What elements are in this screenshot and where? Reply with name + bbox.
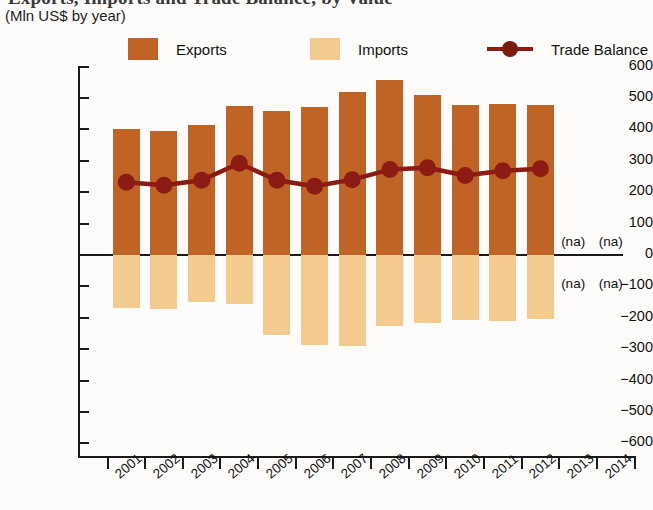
y-tick bbox=[78, 191, 89, 193]
export-bar bbox=[301, 107, 328, 255]
y-tick bbox=[78, 97, 89, 99]
export-bar bbox=[113, 129, 140, 255]
export-bar bbox=[188, 125, 215, 255]
y-tick-label: 200 bbox=[581, 182, 653, 198]
y-tick bbox=[78, 442, 89, 444]
import-bar bbox=[188, 255, 215, 302]
y-tick bbox=[78, 380, 89, 382]
x-tick bbox=[144, 456, 146, 469]
import-bar bbox=[527, 255, 554, 319]
export-bar bbox=[414, 95, 441, 255]
import-bar bbox=[301, 255, 328, 345]
x-tick bbox=[370, 456, 372, 469]
export-bar bbox=[489, 104, 516, 255]
import-bar bbox=[263, 255, 290, 335]
export-bar bbox=[527, 105, 554, 255]
na-label: (na) bbox=[561, 276, 585, 291]
import-bar bbox=[452, 255, 479, 320]
y-tick-label: 100 bbox=[581, 214, 653, 230]
y-tick bbox=[78, 411, 89, 413]
x-tick bbox=[107, 456, 109, 469]
y-tick-label: 300 bbox=[581, 151, 653, 167]
x-tick bbox=[483, 456, 485, 469]
export-bar bbox=[376, 80, 403, 255]
import-bar bbox=[376, 255, 403, 326]
x-tick bbox=[257, 456, 259, 469]
y-tick-label: −500 bbox=[581, 402, 653, 418]
y-tick-label: −200 bbox=[581, 308, 653, 324]
import-bar bbox=[489, 255, 516, 321]
y-tick bbox=[78, 66, 89, 68]
import-bar bbox=[226, 255, 253, 304]
export-bar bbox=[339, 92, 366, 255]
y-tick bbox=[78, 128, 89, 130]
na-label: (na) bbox=[599, 234, 623, 249]
y-tick bbox=[78, 317, 89, 319]
y-tick bbox=[78, 348, 89, 350]
export-bar bbox=[452, 105, 479, 255]
export-bar bbox=[150, 131, 177, 255]
y-tick-label: 500 bbox=[581, 88, 653, 104]
export-bar bbox=[226, 106, 253, 255]
y-tick bbox=[78, 254, 89, 256]
y-tick-label: −400 bbox=[581, 371, 653, 387]
y-tick bbox=[78, 285, 89, 287]
na-label: (na) bbox=[599, 276, 623, 291]
y-tick-label: −600 bbox=[581, 433, 653, 449]
y-tick-label: −300 bbox=[581, 339, 653, 355]
export-bar bbox=[263, 111, 290, 255]
y-tick-label: 600 bbox=[581, 57, 653, 73]
import-bar bbox=[339, 255, 366, 346]
plot-area: 6005004003002001000−100−200−300−400−500−… bbox=[0, 0, 653, 510]
y-axis-line bbox=[78, 66, 80, 457]
import-bar bbox=[150, 255, 177, 309]
trade-chart: Exports, Imports and Trade Balance, by V… bbox=[0, 0, 653, 510]
y-tick bbox=[78, 223, 89, 225]
y-tick bbox=[78, 160, 89, 162]
na-label: (na) bbox=[561, 234, 585, 249]
y-tick-label: 400 bbox=[581, 119, 653, 135]
import-bar bbox=[414, 255, 441, 323]
import-bar bbox=[113, 255, 140, 308]
x-tick bbox=[558, 456, 560, 469]
